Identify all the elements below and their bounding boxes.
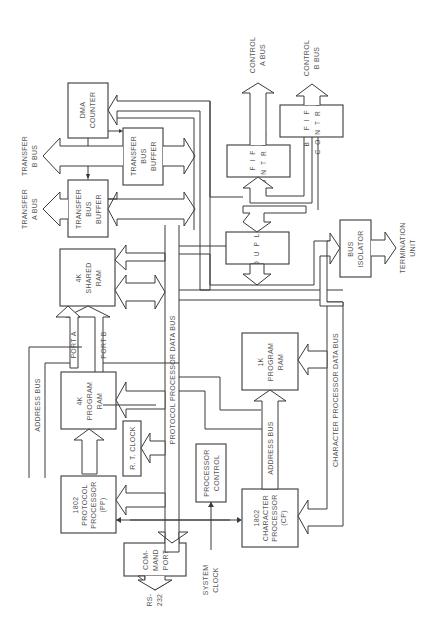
shared-ram-label-1: 4K bbox=[75, 273, 82, 282]
block-diagram: DMA COUNTER TRANSFER BUS BUFFER TRANSFER… bbox=[0, 0, 436, 632]
shared-ram-label-3: RAM bbox=[95, 270, 102, 286]
svg-text:CLOCK: CLOCK bbox=[212, 567, 219, 593]
transfer-a-bus-arrow bbox=[43, 192, 68, 226]
bus-isolator-label-1: BUS bbox=[347, 241, 354, 256]
program-ram-4k-label-1: 4K bbox=[76, 396, 83, 405]
transfer-b-bus-label: TRANSFER B BUS bbox=[21, 136, 38, 176]
control-a-bus-arrow bbox=[242, 83, 274, 145]
svg-text:SYSTEM: SYSTEM bbox=[202, 565, 209, 596]
shared-ram-block: 4K SHARED RAM bbox=[60, 249, 115, 306]
buffer-a-data-bus-arrow bbox=[108, 192, 195, 226]
termination-unit-arrow bbox=[371, 232, 396, 264]
cp-address-bus-label: ADDRESS BUS bbox=[267, 421, 274, 475]
pp-label-3: PROCESSOR bbox=[90, 481, 97, 528]
tbb-b-label-2: BUS bbox=[140, 148, 147, 163]
pp-data-bus-arrow bbox=[116, 485, 165, 515]
rt-clock-data-bus bbox=[141, 433, 165, 463]
program-ram-4k-block: 4K PROGRAM RAM bbox=[61, 372, 116, 429]
svg-text:CHARACTER PROCESSOR DATA BUS: CHARACTER PROCESSOR DATA BUS bbox=[332, 333, 339, 467]
program-ram-1k-label-1: 1K bbox=[257, 357, 264, 366]
transfer-a-bus-label: TRANSFER A BUS bbox=[21, 189, 38, 229]
address-bus-pp-label: ADDRESS BUS bbox=[34, 378, 41, 432]
svg-text:B BUS: B BUS bbox=[31, 145, 38, 168]
program-ram-4k-label-3: RAM bbox=[96, 393, 103, 409]
svg-text:PORT B: PORT B bbox=[100, 331, 107, 359]
bus-isolator-label-2: ISOLATOR bbox=[357, 230, 364, 267]
arrow-icon bbox=[86, 174, 90, 180]
transfer-bus-buffer-a-block: TRANSFER BUS BUFFER bbox=[68, 180, 108, 237]
svg-text:TERMINATION: TERMINATION bbox=[399, 222, 406, 273]
port-b-label: PORT B bbox=[100, 331, 107, 359]
command-port-label-2: MAND bbox=[152, 549, 159, 571]
svg-text:ADDRESS BUS: ADDRESS BUS bbox=[34, 378, 41, 432]
processor-control-label-2: CONTROL bbox=[213, 455, 220, 491]
termination-unit-label: TERMINATION UNIT bbox=[399, 222, 416, 273]
svg-text:R. T. CLOCK: R. T. CLOCK bbox=[129, 426, 136, 470]
shared-ram-bus-1 bbox=[115, 245, 165, 270]
tbb-a-label-1: TRANSFER bbox=[75, 189, 82, 229]
tbb-b-label-1: TRANSFER bbox=[130, 136, 137, 176]
svg-text:A BUS: A BUS bbox=[31, 198, 38, 220]
program-ram-4k-address-bus bbox=[74, 429, 104, 474]
shared-ram-label-2: SHARED bbox=[85, 263, 92, 294]
arrow-icon bbox=[208, 502, 214, 507]
rt-clock-block: R. T. CLOCK bbox=[123, 421, 141, 476]
coupler-bottom-bus bbox=[243, 264, 271, 285]
svg-text:ADDRESS BUS: ADDRESS BUS bbox=[267, 421, 274, 475]
transfer-bus-buffer-b-block: TRANSFER BUS BUFFER bbox=[123, 128, 163, 185]
port-a-label: PORT A bbox=[70, 331, 77, 358]
dma-counter-block: DMA COUNTER bbox=[68, 83, 108, 138]
arrow-icon bbox=[237, 517, 242, 523]
cp-label-2: CHARACTER bbox=[262, 495, 269, 541]
svg-text:TRANSFER: TRANSFER bbox=[21, 189, 28, 229]
pp-label-1: 1802 bbox=[72, 497, 79, 514]
tbb-a-label-2: BUS bbox=[85, 201, 92, 216]
svg-text:CONTROL: CONTROL bbox=[303, 40, 310, 76]
program-ram-4k-data-bus bbox=[116, 382, 165, 418]
arrow-icon bbox=[119, 129, 123, 133]
control-b-bus-arrow bbox=[296, 84, 328, 105]
pp-data-bus-label: PROTOCOL PROCESSOR DATA BUS bbox=[169, 315, 176, 444]
coupler-top-bus bbox=[243, 206, 306, 232]
protocol-processor-block: 1802 PROTOCOL PROCESSOR (PP) bbox=[61, 476, 116, 533]
program-ram-1k-label-2: PROGRAM bbox=[267, 343, 274, 381]
bus-isolator-block: BUS ISOLATOR bbox=[340, 220, 371, 277]
cp-label-1: 1802 bbox=[253, 510, 260, 527]
svg-text:UNIT: UNIT bbox=[409, 239, 416, 257]
control-b-bus-label: CONTROL B BUS bbox=[303, 40, 320, 76]
program-ram-4k-label-2: PROGRAM bbox=[86, 382, 93, 420]
svg-text:232: 232 bbox=[156, 594, 163, 607]
dma-counter-label-2: COUNTER bbox=[89, 92, 96, 129]
processor-control-label-1: PROCESSOR bbox=[203, 449, 210, 496]
cp-label-4: (CP) bbox=[280, 510, 288, 526]
program-ram-1k-block: 1K PROGRAM RAM bbox=[242, 333, 298, 390]
svg-text:PORT A: PORT A bbox=[70, 331, 77, 358]
cp-label-3: PROCESSOR bbox=[271, 494, 278, 541]
program-ram-1k-label-3: RAM bbox=[277, 354, 284, 370]
svg-text:RS-: RS- bbox=[146, 593, 153, 606]
transfer-b-bus-arrow bbox=[43, 138, 123, 174]
tbb-a-label-3: BUFFER bbox=[95, 194, 102, 224]
control-a-bus-label: CONTROL A BUS bbox=[249, 37, 266, 73]
system-clock-label: SYSTEM CLOCK bbox=[202, 565, 219, 596]
dma-counter-label-1: DMA bbox=[79, 102, 86, 118]
svg-text:TRANSFER: TRANSFER bbox=[21, 136, 28, 176]
tbb-b-label-3: BUFFER bbox=[150, 141, 157, 171]
shared-ram-bus-2 bbox=[115, 275, 165, 309]
character-processor-block: 1802 CHARACTER PROCESSOR (CP) bbox=[242, 489, 298, 547]
svg-text:A BUS: A BUS bbox=[259, 44, 266, 66]
rs232-label: RS- 232 bbox=[146, 593, 163, 606]
svg-text:PROTOCOL PROCESSOR DATA BUS: PROTOCOL PROCESSOR DATA BUS bbox=[169, 315, 176, 444]
pp-label-2: PROTOCOL bbox=[81, 484, 88, 526]
pp-label-4: (PP) bbox=[99, 497, 107, 512]
program-ram-1k-data-bus bbox=[298, 344, 327, 375]
command-port-label-1: COM- bbox=[142, 550, 149, 570]
processor-control-block: PROCESSOR CONTROL bbox=[196, 444, 226, 502]
svg-text:CONTROL: CONTROL bbox=[249, 37, 256, 73]
cp-data-bus-label: CHARACTER PROCESSOR DATA BUS bbox=[332, 333, 339, 467]
svg-text:B BUS: B BUS bbox=[313, 47, 320, 70]
buffer-b-data-bus-arrow bbox=[163, 138, 195, 174]
